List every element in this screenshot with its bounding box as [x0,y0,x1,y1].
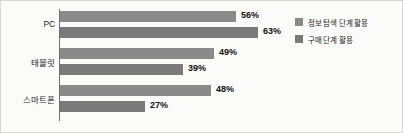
bar-tablet-series2 [60,64,183,75]
bar-value-smartphone-series2: 27% [150,100,168,110]
plot-area: PC 56% 63% 태블릿 49% 39% 스마트폰 48% 27% [1,1,291,133]
legend-item-series2: 구매 단계 활용 [295,32,401,46]
legend-label-series1: 정보 탐색 단계 활용 [308,17,368,28]
chart-legend: 정보 탐색 단계 활용 구매 단계 활용 [295,15,401,49]
bar-tablet-series1 [60,48,214,59]
legend-item-series1: 정보 탐색 단계 활용 [295,15,401,29]
bar-pc-series2 [60,27,258,38]
bar-value-tablet-series1: 49% [219,47,237,57]
bar-smartphone-series2 [60,101,145,112]
legend-label-series2: 구매 단계 활용 [308,34,353,45]
bar-pc-series1 [60,11,236,22]
bar-smartphone-series1 [60,85,211,96]
legend-swatch-series1 [295,18,303,26]
bar-value-pc-series2: 63% [263,26,281,36]
chart-figure: PC 56% 63% 태블릿 49% 39% 스마트폰 48% 27% 정보 탐… [0,0,403,133]
category-label-tablet: 태블릿 [1,56,55,68]
bar-value-smartphone-series1: 48% [216,84,234,94]
bar-value-pc-series1: 56% [241,10,259,20]
category-label-smartphone: 스마트폰 [1,93,55,105]
category-label-pc: PC [1,19,55,29]
legend-swatch-series2 [295,35,303,43]
bar-value-tablet-series2: 39% [188,63,206,73]
